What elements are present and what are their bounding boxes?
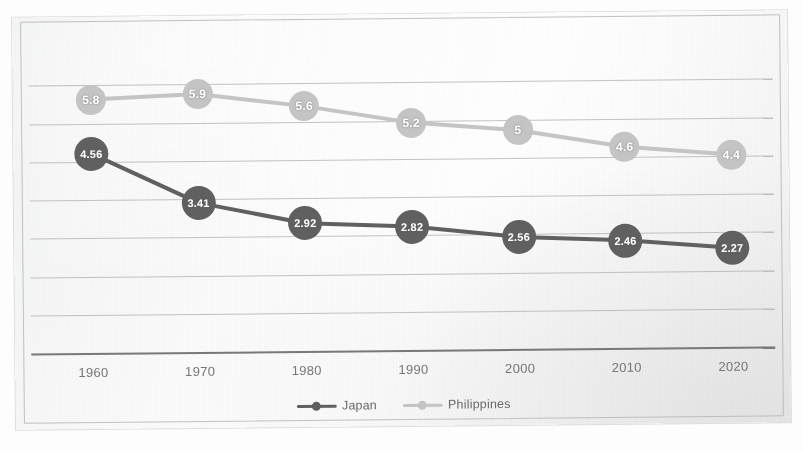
x-tick-1990: 1990: [398, 362, 428, 377]
x-tick-2020: 2020: [718, 359, 748, 374]
data-point-japan-1970: [181, 186, 215, 220]
data-point-japan-2020: [715, 230, 749, 264]
x-tick-1970: 1970: [185, 364, 215, 379]
data-point-philippines-1970: [182, 79, 212, 109]
data-point-philippines-2020: [716, 139, 746, 169]
data-point-japan-2010: [608, 223, 642, 257]
legend-item-philippines[interactable]: Philippines: [403, 397, 511, 412]
series-lines: [28, 20, 775, 357]
plot-area: 4.563.412.922.822.562.462.275.85.95.65.2…: [28, 20, 775, 357]
data-point-japan-1980: [288, 206, 322, 240]
data-point-philippines-2010: [609, 132, 639, 162]
legend-swatch-philippines: [403, 400, 443, 410]
chart-photo: 4.563.412.922.822.562.462.275.85.95.65.2…: [0, 0, 803, 452]
data-point-japan-2000: [502, 220, 536, 254]
data-point-philippines-2000: [503, 115, 533, 145]
chart-frame: 4.563.412.922.822.562.462.275.85.95.65.2…: [20, 14, 784, 423]
legend-marker-japan: [312, 402, 321, 411]
x-tick-2010: 2010: [612, 360, 642, 375]
legend-label-philippines: Philippines: [448, 397, 511, 412]
legend-marker-philippines: [418, 401, 427, 410]
data-point-japan-1960: [74, 137, 108, 171]
x-tick-1980: 1980: [292, 363, 322, 378]
data-point-philippines-1960: [76, 84, 106, 114]
legend-swatch-japan: [297, 401, 337, 411]
legend-label-japan: Japan: [342, 398, 377, 412]
data-point-philippines-1980: [289, 91, 319, 121]
legend-item-japan[interactable]: Japan: [297, 398, 377, 413]
data-point-philippines-1990: [396, 107, 426, 137]
x-tick-1960: 1960: [78, 365, 108, 380]
x-tick-2000: 2000: [505, 361, 535, 376]
data-point-japan-1990: [395, 209, 429, 243]
